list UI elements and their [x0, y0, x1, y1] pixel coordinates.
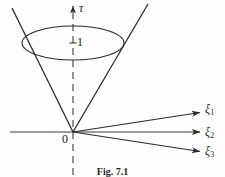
ray-xi1	[73, 113, 200, 133]
ray-xi3	[73, 132, 200, 152]
ray-label-xi1: ξ1	[205, 103, 214, 117]
xi3-subscript: 3	[210, 150, 214, 159]
tau-axis-label: τ	[79, 2, 83, 14]
xi2-subscript: 2	[210, 131, 214, 140]
tau-tick-label-1: 1	[77, 36, 83, 48]
origin-label: 0	[62, 133, 68, 145]
figure-caption: Fig. 7.1	[0, 167, 225, 177]
cone-right-generator	[73, 4, 148, 132]
light-cone-figure: τ 1 0 ξ1 ξ2 ξ3 Fig. 7.1	[0, 0, 225, 177]
figure-canvas	[0, 0, 225, 177]
ray-label-xi3: ξ3	[205, 145, 214, 159]
ray-label-xi2: ξ2	[205, 126, 214, 140]
xi1-subscript: 1	[210, 108, 214, 117]
